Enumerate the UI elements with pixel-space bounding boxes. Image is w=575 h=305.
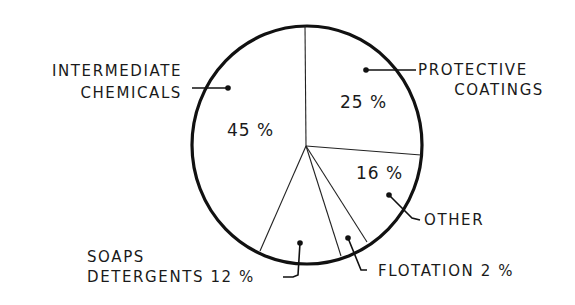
value-other: 16 % [356, 163, 403, 183]
dot-intermediate [225, 85, 231, 91]
dot-flotation [345, 235, 351, 241]
label-intermediate: INTERMEDIATE CHEMICALS [20, 62, 182, 102]
label-intermediate-line1: INTERMEDIATE [20, 62, 182, 80]
value-protective: 25 % [340, 92, 387, 112]
label-soaps: SOAPS DETERGENTS 12 % [87, 248, 255, 286]
dot-protective [363, 67, 369, 73]
label-other: OTHER [424, 211, 484, 229]
dot-soaps [297, 240, 303, 246]
pie-chart: INTERMEDIATE CHEMICALS PROTECTIVE COATIN… [0, 0, 575, 305]
dot-other [386, 192, 392, 198]
label-protective: PROTECTIVE COATINGS [418, 61, 544, 99]
label-protective-line1: PROTECTIVE [418, 61, 544, 79]
label-soaps-line1: SOAPS [87, 248, 255, 266]
label-flotation: FLOTATION 2 % [378, 262, 514, 280]
pie-outline [192, 26, 422, 264]
label-intermediate-line2: CHEMICALS [20, 84, 182, 102]
label-protective-line2: COATINGS [418, 81, 544, 99]
label-soaps-line2: DETERGENTS 12 % [87, 268, 255, 286]
value-intermediate: 45 % [227, 120, 274, 140]
